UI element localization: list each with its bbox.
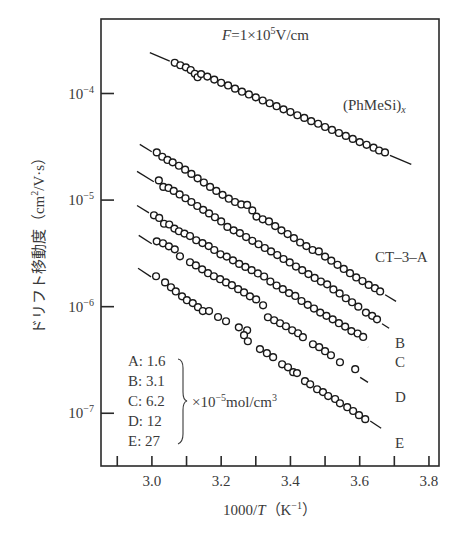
- data-point-A: [322, 253, 329, 260]
- x-axis-tick-labels: 3.03.23.43.63.8: [143, 473, 439, 489]
- data-point-A: [290, 235, 297, 242]
- y-tick-label: 10−5: [68, 190, 94, 208]
- data-point-A: [340, 266, 347, 273]
- legend-entry-c: C: 6.2: [128, 393, 165, 409]
- data-point-E: [206, 308, 213, 315]
- data-point-A: [328, 257, 335, 264]
- data-point-A: [347, 270, 354, 277]
- data-point-B: [324, 281, 331, 288]
- data-point-E: [215, 314, 222, 321]
- data-point-(PhMeSi)x: [363, 141, 370, 148]
- data-point-(PhMeSi)x: [349, 136, 356, 143]
- data-point-(PhMeSi)x: [204, 73, 211, 80]
- data-point-D: [229, 282, 236, 289]
- data-point-(PhMeSi)x: [211, 76, 218, 83]
- data-point-A: [207, 183, 214, 190]
- legend-unit: ×10−5mol/cm3: [192, 392, 277, 410]
- data-point-D: [260, 302, 267, 309]
- y-tick-label: 10−7: [68, 403, 94, 421]
- y-axis-label: ドリフト移動度（cm2/V·s）: [29, 150, 47, 334]
- data-point-C: [329, 316, 336, 323]
- x-tick-label: 3.4: [281, 473, 300, 489]
- data-point-A: [213, 187, 220, 194]
- data-point-(PhMeSi)x: [266, 100, 273, 107]
- data-point-E: [172, 288, 179, 295]
- data-point-(PhMeSi)x: [218, 79, 225, 86]
- dopant-label: CT–3–A: [375, 249, 428, 265]
- series-label-C: C: [395, 354, 405, 370]
- data-point-C: [261, 273, 268, 280]
- data-point-E: [244, 338, 251, 345]
- mobility-chart: 3.03.23.43.63.8 10−410−510−610−7 BCDE 10…: [0, 0, 462, 540]
- data-point-D: [192, 262, 199, 269]
- data-point-B: [330, 286, 337, 293]
- data-point-A: [377, 288, 384, 295]
- fit-line-start-D: [139, 235, 152, 243]
- data-point-B: [374, 316, 381, 323]
- data-point-A: [303, 243, 310, 250]
- fit-line-start-C: [137, 205, 149, 212]
- data-point-(PhMeSi)x: [259, 97, 266, 104]
- data-point-(PhMeSi)x: [252, 94, 259, 101]
- legend-entry-d: D: 12: [128, 413, 162, 429]
- x-tick-label: 3.2: [212, 473, 231, 489]
- data-point-E: [162, 279, 169, 286]
- series-label-D: D: [395, 389, 406, 405]
- data-point-E: [263, 350, 270, 357]
- data-point-D: [299, 334, 306, 341]
- data-point-A: [182, 166, 189, 173]
- data-point-(PhMeSi)x: [356, 139, 363, 146]
- data-point-A: [266, 218, 273, 225]
- data-point-(PhMeSi)x: [322, 124, 329, 131]
- fit-line-end-A: [385, 295, 396, 302]
- fit-line-start-A: [140, 144, 152, 151]
- series-label-E: E: [395, 435, 404, 451]
- data-point-C: [311, 305, 318, 312]
- data-point-D: [328, 352, 335, 359]
- data-point-D: [171, 246, 178, 253]
- data-point-C: [156, 215, 163, 222]
- data-point-B: [349, 299, 356, 306]
- x-tick-label: 3.6: [350, 473, 369, 489]
- data-point-B: [342, 295, 349, 302]
- x-axis-label: 1000/T（K−1）: [223, 500, 317, 518]
- data-point-(PhMeSi)x: [315, 120, 322, 127]
- fit-line-end-D: [360, 377, 368, 382]
- fit-line-end-(PhMeSi)x: [390, 155, 411, 164]
- data-point-(PhMeSi)x: [225, 82, 232, 89]
- data-point-C: [292, 293, 299, 300]
- data-point-A: [359, 278, 366, 285]
- y-axis-tick-labels: 10−410−510−610−7: [68, 84, 94, 422]
- data-point-A: [176, 162, 183, 169]
- data-point-(PhMeSi)x: [273, 103, 280, 110]
- data-point-(PhMeSi)x: [239, 88, 246, 95]
- y-axis-ticks: [101, 94, 114, 414]
- data-point-C: [211, 247, 218, 254]
- data-point-C: [187, 233, 194, 240]
- data-point-(PhMeSi)x: [245, 91, 252, 98]
- data-point-(PhMeSi)x: [342, 133, 349, 140]
- x-axis-ticks: [117, 456, 429, 466]
- data-point-B: [299, 267, 306, 274]
- series-labels: BCDE: [395, 335, 406, 451]
- data-point-A: [188, 171, 195, 178]
- data-point-(PhMeSi)x: [336, 130, 343, 137]
- data-point-A: [200, 179, 207, 186]
- fit-line-start-E: [138, 268, 151, 277]
- data-point-B: [155, 177, 162, 184]
- legend-entry-e: E: 27: [128, 433, 161, 449]
- data-point-A: [334, 261, 341, 268]
- data-point-A: [272, 223, 279, 230]
- fit-line-end-B: [382, 324, 389, 328]
- data-point-C: [298, 298, 305, 305]
- data-point-(PhMeSi)x: [232, 85, 239, 92]
- data-point-B: [305, 271, 312, 278]
- data-point-A: [315, 248, 322, 255]
- data-point-C: [267, 278, 274, 285]
- concentration-legend: A: 1.6 B: 3.1 C: 6.2 D: 12 E: 27 ×10−5mo…: [128, 353, 277, 449]
- data-point-D: [283, 323, 290, 330]
- data-point-(PhMeSi)x: [329, 127, 336, 134]
- data-point-A: [219, 191, 226, 198]
- legend-brace: [178, 359, 187, 444]
- data-point-C: [360, 334, 367, 341]
